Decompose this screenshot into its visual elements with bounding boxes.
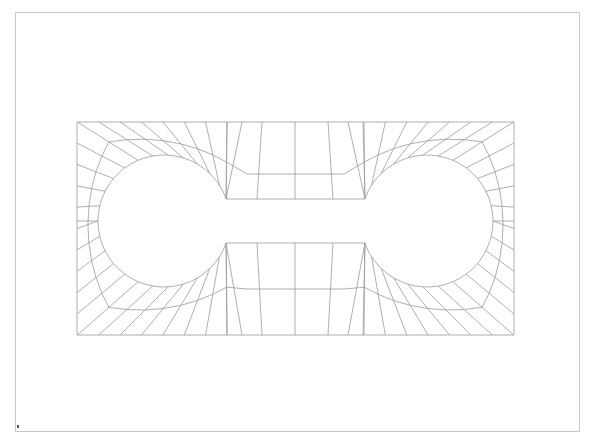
mesh-spoke bbox=[372, 257, 386, 335]
center-spoke-top bbox=[328, 122, 333, 199]
center-spoke-bottom bbox=[348, 243, 365, 335]
mesh-spoke bbox=[491, 206, 514, 207]
mesh-spoke bbox=[77, 206, 100, 207]
mesh-spoke bbox=[77, 251, 105, 272]
mesh-lines bbox=[77, 122, 514, 335]
mesh-spoke bbox=[478, 164, 515, 178]
mid-contour-link bbox=[227, 162, 247, 174]
mesh-spoke bbox=[381, 122, 407, 173]
center-spoke-top bbox=[348, 122, 365, 199]
right-circle-edge bbox=[365, 155, 493, 287]
mesh-spoke bbox=[77, 143, 125, 168]
left-circle-edge bbox=[98, 155, 226, 287]
mesh-spoke bbox=[394, 278, 429, 335]
mesh-spoke bbox=[184, 122, 209, 173]
center-spoke-bottom bbox=[226, 243, 242, 335]
center-spoke-top bbox=[226, 122, 242, 199]
plate-outline bbox=[77, 122, 514, 335]
mesh-spoke bbox=[77, 221, 98, 229]
mesh-spoke bbox=[77, 164, 114, 178]
center-spoke-bottom bbox=[226, 243, 227, 335]
center-spoke-top bbox=[226, 122, 227, 199]
mesh-diagram bbox=[0, 0, 591, 437]
mesh-spoke bbox=[394, 122, 429, 164]
mid-contour-link bbox=[344, 162, 364, 174]
mesh-spoke bbox=[163, 278, 198, 335]
mesh-spoke bbox=[486, 251, 514, 272]
origin-marker bbox=[17, 425, 19, 428]
mesh-spoke bbox=[163, 122, 198, 164]
mid-contour-link bbox=[344, 287, 364, 289]
mid-contour-link bbox=[227, 287, 247, 289]
center-spoke-top bbox=[257, 122, 262, 199]
mesh-spoke bbox=[466, 143, 514, 168]
mesh-spoke bbox=[206, 257, 220, 335]
mesh-spoke bbox=[493, 221, 514, 229]
